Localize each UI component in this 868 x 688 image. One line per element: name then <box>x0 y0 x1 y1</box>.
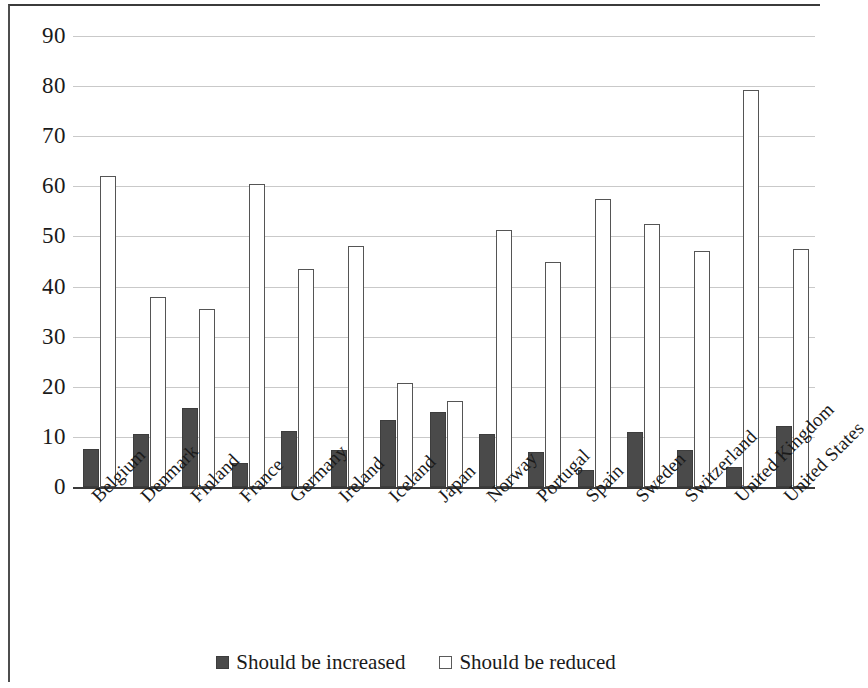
y-axis-tick-label: 90 <box>20 24 66 47</box>
y-axis-tick-label: 60 <box>20 174 66 197</box>
bar-group <box>528 36 561 487</box>
y-axis-tick-label: 70 <box>20 124 66 147</box>
bar-should-be-increased[interactable] <box>281 431 297 487</box>
legend-label: Should be reduced <box>459 651 615 673</box>
bar-group <box>331 36 364 487</box>
bar-should-be-reduced[interactable] <box>545 262 561 488</box>
y-axis-tick-label: 20 <box>20 375 66 398</box>
bar-group <box>182 36 215 487</box>
y-axis-tick-label: 10 <box>20 425 66 448</box>
bar-group <box>726 36 759 487</box>
bar-should-be-reduced[interactable] <box>496 230 512 487</box>
bar-should-be-increased[interactable] <box>380 420 396 487</box>
bar-should-be-increased[interactable] <box>430 412 446 487</box>
legend-swatch-reduced-icon <box>439 656 452 669</box>
x-axis-labels: BelgiumDenmarkFinlandFranceGermanyIrelan… <box>73 492 833 612</box>
bar-should-be-reduced[interactable] <box>348 246 364 487</box>
y-axis-tick-label: 0 <box>20 475 66 498</box>
y-axis-tick-label: 50 <box>20 224 66 247</box>
bar-should-be-reduced[interactable] <box>595 199 611 487</box>
plot-area <box>73 36 815 487</box>
bar-group <box>479 36 512 487</box>
y-axis: 0102030405060708090 <box>10 6 66 688</box>
bar-should-be-reduced[interactable] <box>199 309 215 487</box>
chart-frame: 0102030405060708090 BelgiumDenmarkFinlan… <box>8 4 820 682</box>
legend-item[interactable]: Should be reduced <box>439 651 615 673</box>
bar-group <box>281 36 314 487</box>
bar-should-be-reduced[interactable] <box>249 184 265 487</box>
bar-should-be-reduced[interactable] <box>298 269 314 487</box>
bar-group <box>430 36 463 487</box>
bar-group <box>677 36 710 487</box>
y-axis-tick-label: 40 <box>20 275 66 298</box>
bar-group <box>578 36 611 487</box>
bar-should-be-reduced[interactable] <box>644 224 660 487</box>
bar-should-be-reduced[interactable] <box>694 251 710 487</box>
legend-item[interactable]: Should be increased <box>216 651 405 673</box>
bar-group <box>627 36 660 487</box>
y-axis-tick-label: 80 <box>20 74 66 97</box>
bar-group <box>380 36 413 487</box>
bar-group <box>83 36 116 487</box>
bar-group <box>232 36 265 487</box>
chart-legend: Should be increasedShould be reduced <box>10 651 822 673</box>
y-axis-tick-label: 30 <box>20 325 66 348</box>
bar-should-be-reduced[interactable] <box>100 176 116 487</box>
legend-swatch-increased-icon <box>216 656 229 669</box>
bar-group <box>133 36 166 487</box>
legend-label: Should be increased <box>236 651 405 673</box>
bar-should-be-increased[interactable] <box>627 432 643 487</box>
bar-should-be-reduced[interactable] <box>150 297 166 487</box>
